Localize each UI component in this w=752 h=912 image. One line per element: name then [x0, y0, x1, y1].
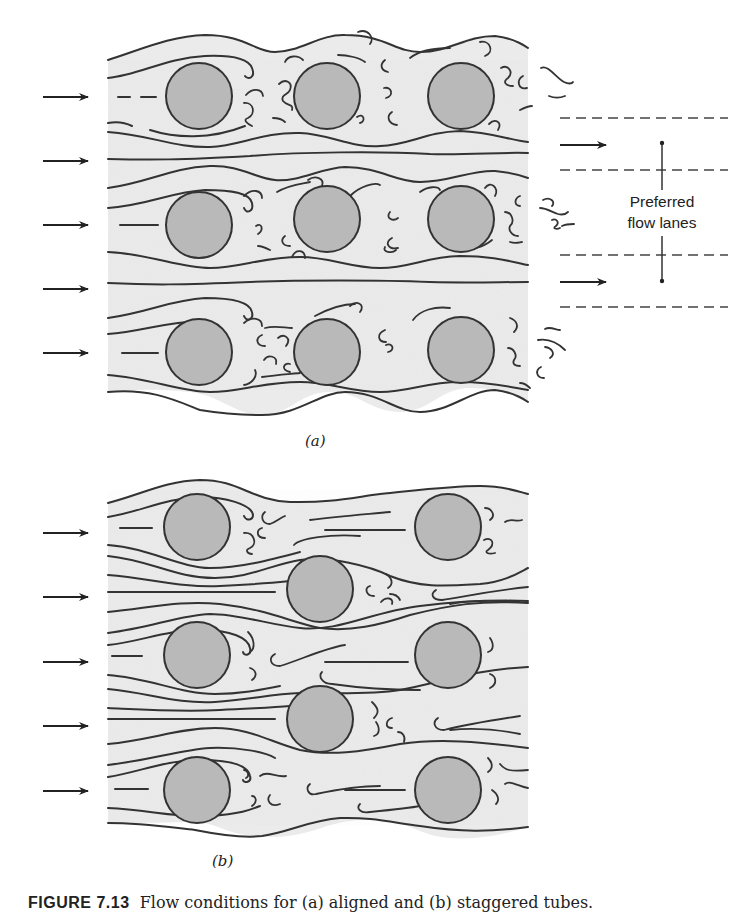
preferred-flow-lanes-label: Preferred flow lanes — [612, 191, 712, 233]
tubes-a — [166, 63, 494, 385]
tube — [166, 63, 232, 129]
panel-b-staggered — [43, 480, 528, 838]
caption-text: Flow conditions for (a) aligned and (b) … — [140, 893, 594, 912]
tube — [294, 319, 360, 385]
tube — [164, 757, 230, 823]
tube — [164, 622, 230, 688]
tube — [166, 319, 232, 385]
tube — [415, 757, 481, 823]
inlet-arrows-a — [43, 97, 88, 353]
label-line-1: Preferred — [612, 191, 712, 212]
tube — [166, 192, 232, 258]
tube — [428, 186, 494, 252]
tube — [294, 63, 360, 129]
tube — [415, 622, 481, 688]
tube — [428, 63, 494, 129]
tube — [164, 494, 230, 560]
tube — [287, 686, 353, 752]
label-line-2: flow lanes — [612, 212, 712, 233]
panel-a-label: (a) — [305, 432, 326, 450]
tube — [415, 494, 481, 560]
caption-figure-number: FIGURE 7.13 — [28, 894, 130, 911]
tube — [428, 317, 494, 383]
panel-b-label: (b) — [212, 852, 233, 870]
tube — [287, 556, 353, 622]
figure-caption: FIGURE 7.13 Flow conditions for (a) alig… — [28, 893, 593, 912]
tube — [294, 186, 360, 252]
inlet-arrows-b — [43, 533, 88, 791]
